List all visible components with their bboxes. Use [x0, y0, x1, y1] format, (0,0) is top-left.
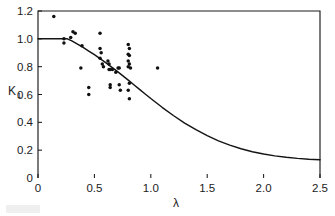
data-point	[98, 47, 102, 51]
data-point	[69, 36, 73, 40]
data-point	[128, 54, 132, 58]
data-point	[128, 47, 132, 51]
data-point	[52, 15, 56, 19]
data-point	[107, 62, 111, 66]
data-point	[111, 68, 115, 72]
data-point	[156, 66, 160, 70]
scatter-plot-svg: 00.51.01.52.02.5 00.20.40.60.81.01.2 K 1…	[0, 0, 335, 216]
frame-rect	[38, 11, 320, 178]
data-point	[108, 86, 112, 90]
data-point	[102, 65, 106, 69]
x-tick-label: 0	[35, 182, 41, 194]
x-axis-tick-labels: 00.51.01.52.02.5	[35, 182, 328, 194]
x-tick-label: 1.0	[143, 182, 159, 194]
data-point	[117, 66, 121, 70]
x-axis-title: λ	[173, 196, 179, 210]
theoretical-curve	[38, 39, 320, 160]
page-scan-artifact	[6, 205, 40, 213]
x-tick-label: 2.5	[312, 182, 328, 194]
y-tick-label: 0.8	[17, 61, 33, 73]
x-axis-ticks	[38, 174, 320, 178]
y-axis-title: K	[8, 84, 16, 98]
data-point	[117, 83, 121, 87]
data-point	[79, 66, 83, 70]
data-point	[62, 37, 66, 41]
plot-frame	[38, 11, 320, 178]
data-point	[119, 89, 123, 93]
data-point	[126, 43, 130, 47]
data-point	[87, 93, 91, 97]
y-tick-label: 0.2	[17, 144, 33, 156]
figure-panel: 00.51.01.52.02.5 00.20.40.60.81.01.2 K 1…	[0, 0, 335, 216]
data-point	[128, 82, 132, 86]
data-point	[98, 32, 102, 36]
data-point	[80, 44, 84, 48]
data-point	[126, 89, 130, 93]
y-tick-label: 1.2	[17, 5, 33, 17]
data-point	[99, 51, 103, 55]
data-point	[73, 32, 77, 36]
y-tick-label: 0.4	[17, 116, 34, 128]
y-axis-title-group: K 1	[8, 84, 22, 100]
data-point	[98, 57, 102, 61]
y-axis-ticks	[38, 11, 42, 150]
x-tick-label: 1.5	[199, 182, 215, 194]
data-point	[62, 41, 66, 45]
data-point	[87, 86, 91, 90]
data-point	[114, 70, 118, 74]
x-tick-label: 2.0	[256, 182, 272, 194]
data-point-group	[52, 15, 159, 101]
y-axis-title-subscript: 1	[17, 91, 22, 100]
data-point	[128, 97, 132, 101]
x-tick-label: 0.5	[86, 182, 102, 194]
data-point	[129, 66, 133, 70]
y-tick-label: 1.0	[17, 33, 33, 45]
y-tick-label: 0	[27, 172, 33, 184]
